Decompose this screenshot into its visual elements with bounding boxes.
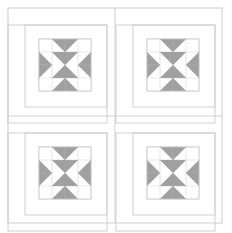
star-corner-square	[186, 78, 199, 91]
star-corner-square	[39, 186, 52, 199]
star-corner-square	[39, 39, 52, 52]
star-corner-square	[147, 147, 160, 160]
quilt-diagram-canvas	[0, 0, 232, 233]
quilt-svg-root	[0, 0, 232, 233]
star-corner-square	[39, 147, 52, 160]
star-corner-square	[147, 39, 160, 52]
star-corner-square	[186, 186, 199, 199]
star-corner-square	[39, 78, 52, 91]
star-corner-square	[147, 78, 160, 91]
star-corner-square	[78, 186, 91, 199]
star-corner-square	[78, 39, 91, 52]
star-corner-square	[147, 186, 160, 199]
star-corner-square	[78, 147, 91, 160]
star-corner-square	[186, 147, 199, 160]
star-corner-square	[78, 78, 91, 91]
star-corner-square	[186, 39, 199, 52]
